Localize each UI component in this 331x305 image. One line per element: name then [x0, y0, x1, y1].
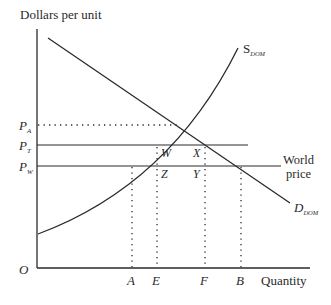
quantity-e-label: E — [151, 273, 160, 288]
point-z-label: Z — [161, 167, 168, 181]
quantity-a-label: A — [126, 273, 135, 288]
origin-label: O — [19, 262, 29, 277]
quantity-f-label: F — [199, 273, 209, 288]
demand-label: DDOM — [293, 200, 319, 216]
pa-label: PA — [18, 118, 32, 135]
point-y-label: Y — [193, 167, 201, 181]
tariff-diagram: Dollars per unit PA PT PW O A E F B Quan… — [0, 0, 331, 305]
quantity-b-label: B — [236, 273, 244, 288]
x-axis-title: Quantity — [261, 273, 307, 288]
supply-label: SDOM — [243, 41, 266, 57]
world-price-label-line2: price — [286, 167, 311, 181]
y-axis-title: Dollars per unit — [20, 7, 102, 22]
supply-curve — [38, 48, 238, 234]
pw-label: PW — [18, 159, 34, 176]
world-price-label-line1: World — [283, 153, 315, 167]
point-x-label: X — [192, 146, 201, 160]
demand-curve — [48, 38, 290, 203]
point-w-label: W — [161, 146, 172, 160]
pt-label: PT — [18, 138, 32, 155]
